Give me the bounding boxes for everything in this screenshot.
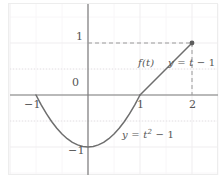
grid-minor bbox=[10, 4, 218, 175]
parabola-eq-one: 1 bbox=[167, 129, 174, 140]
parabola-eq-equals: = bbox=[131, 129, 140, 140]
y-tick-label-zero: 0 bbox=[72, 77, 79, 88]
parabola-eq-minus: − bbox=[156, 129, 165, 140]
y-tick-label-neg-one: −1 bbox=[68, 145, 85, 156]
line-eq-one: 1 bbox=[209, 57, 216, 68]
line-eq-equals: = bbox=[177, 57, 186, 68]
figure-border bbox=[9, 4, 218, 175]
parabola-equation-label: y = t2 − 1 bbox=[122, 129, 174, 140]
x-tick-label-two: 2 bbox=[189, 99, 196, 110]
x-tick-label-one: 1 bbox=[137, 99, 144, 110]
x-tick-label-neg-one: −1 bbox=[24, 99, 41, 110]
line-equation-label: y = t − 1 bbox=[168, 58, 215, 68]
y-tick-label-one: 1 bbox=[76, 31, 83, 42]
f-of-t-label: f(t) bbox=[138, 58, 154, 68]
plot-canvas bbox=[0, 0, 223, 179]
endpoint-marker bbox=[190, 41, 195, 46]
function-graph-figure: −1 1 2 0 1 −1 f(t) y = t − 1 y = t2 − 1 bbox=[0, 0, 223, 179]
